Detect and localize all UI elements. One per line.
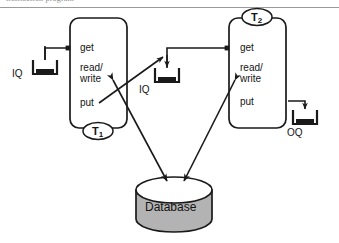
database-label: Database	[145, 201, 196, 213]
port-label-t1-get: get	[80, 43, 94, 53]
port-label-t1-put: put	[80, 98, 94, 108]
diagram-page: transaction program	[0, 0, 339, 243]
port-label-t2-put: put	[240, 97, 254, 107]
edge-t1-readwrite-to-database	[113, 80, 167, 181]
transaction-label-t1-sub: 1	[99, 130, 103, 139]
edge-t1-put-to-iq-middle	[99, 57, 163, 103]
port-label-t1-readwrite-line2: write	[80, 74, 101, 84]
edge-iq-left-to-t1-get	[45, 48, 68, 60]
transaction-label-t2-sub: 2	[258, 16, 262, 25]
transaction-label-t2: T2	[251, 12, 262, 23]
port-label-t2-readwrite-line2: write	[240, 74, 261, 84]
edge-t2-readwrite-to-database	[184, 80, 235, 181]
queue-label-oq-right: OQ	[287, 128, 303, 138]
edge-iq-middle-to-t2-get	[167, 48, 227, 68]
transaction-label-t1: T1	[92, 126, 103, 137]
port-label-t2-readwrite-line1: read/	[240, 63, 263, 73]
transaction-label-t2-letter: T	[251, 11, 258, 23]
port-label-t2-get: get	[240, 43, 254, 53]
port-label-t1-readwrite-line1: read/	[80, 63, 103, 73]
queue-label-iq-left: IQ	[12, 69, 23, 79]
queue-icon-oq-right	[293, 110, 317, 124]
queue-label-iq-middle: IQ	[139, 85, 150, 95]
edge-t2-put-to-oq-right	[288, 101, 305, 109]
transaction-label-t1-letter: T	[92, 125, 99, 137]
